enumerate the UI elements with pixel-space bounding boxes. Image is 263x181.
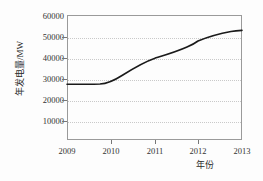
x-tick-mark-2011 <box>155 140 156 144</box>
x-axis-title: 年份 <box>196 158 214 171</box>
x-tick-mark-2012 <box>198 140 199 144</box>
y-tick-label-20000: 20000 <box>43 96 64 105</box>
x-tick-label-2013: 2013 <box>222 147 262 156</box>
gridline-50000 <box>68 38 241 39</box>
chart-container: 60000 50000 40000 30000 20000 10000 2009… <box>0 0 263 181</box>
y-tick-label-50000: 50000 <box>43 33 64 42</box>
x-tick-label-2009: 2009 <box>47 147 87 156</box>
y-tick-mark-40000 <box>62 58 67 59</box>
y-tick-mark-10000 <box>62 121 67 122</box>
y-tick-label-10000: 10000 <box>43 117 64 126</box>
x-tick-label-2010: 2010 <box>91 147 131 156</box>
plot-area <box>67 15 242 140</box>
gridline-30000 <box>68 80 241 81</box>
gridline-20000 <box>68 101 241 102</box>
x-tick-label-2012: 2012 <box>178 147 218 156</box>
y-tick-mark-30000 <box>62 79 67 80</box>
y-tick-label-40000: 40000 <box>43 54 64 63</box>
gridline-40000 <box>68 59 241 60</box>
x-tick-mark-2010 <box>111 140 112 144</box>
y-tick-label-60000: 60000 <box>43 12 64 21</box>
x-tick-label-2011: 2011 <box>135 147 175 156</box>
gridline-10000 <box>68 122 241 123</box>
y-axis-title: 年发电量/MW <box>13 29 26 109</box>
y-tick-label-30000: 30000 <box>43 75 64 84</box>
y-tick-mark-20000 <box>62 100 67 101</box>
y-tick-mark-50000 <box>62 37 67 38</box>
